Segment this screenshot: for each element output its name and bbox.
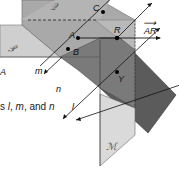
label-n: n [56, 84, 61, 94]
point-c [101, 10, 105, 14]
label-left-a: A [0, 67, 6, 77]
arrow-ar-icon [156, 36, 161, 40]
label-c: C [93, 3, 100, 13]
point-r [115, 36, 119, 40]
label-r: R [114, 25, 121, 35]
arrow-m-icon [44, 69, 48, 74]
caption: s l, m, and n [0, 101, 55, 112]
label-y: Y [118, 74, 125, 84]
label-m: m [35, 66, 43, 76]
arrow-r-icon [147, 3, 152, 7]
label-plane-m: ℳ [106, 141, 118, 152]
arrow-l-icon [76, 117, 81, 121]
label-a: A [68, 30, 75, 40]
point-b [66, 47, 70, 51]
label-b: B [73, 47, 79, 57]
geometry-diagram: C A B R Y m n AR ⟶ A 𝒫 𝒬 ℳ s l, m, and n… [0, 0, 179, 172]
label-ar-overbar: ⟶ [143, 18, 157, 28]
arrow-n-icon [63, 114, 67, 119]
label-l: l [72, 102, 75, 112]
point-a [76, 36, 80, 40]
